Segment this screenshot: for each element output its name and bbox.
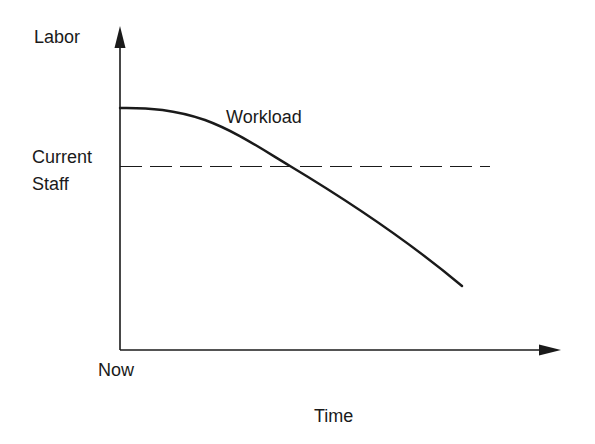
workload-label: Workload: [226, 106, 302, 128]
origin-label: Now: [98, 359, 134, 381]
current-staff-label: Current Staff: [32, 144, 92, 198]
current-staff-label-line1: Current: [32, 144, 92, 171]
current-staff-label-line2: Staff: [32, 171, 92, 198]
x-axis-label: Time: [314, 405, 353, 427]
chart-canvas: [0, 0, 595, 444]
x-axis-arrow-icon: [539, 345, 561, 356]
workload-curve: [120, 108, 462, 286]
y-axis-arrow-icon: [115, 26, 126, 48]
y-axis-label: Labor: [34, 26, 80, 48]
